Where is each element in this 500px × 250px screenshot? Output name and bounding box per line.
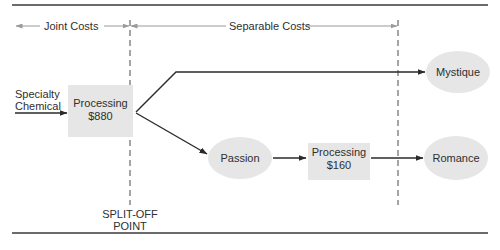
to-mystique-arrow bbox=[136, 72, 425, 112]
joint-processing-cost: $880 bbox=[68, 110, 133, 123]
separable-processing-cost: $160 bbox=[308, 159, 370, 172]
joint-processing-label: Processing bbox=[68, 97, 133, 110]
joint-costs-label: Joint Costs bbox=[44, 20, 98, 33]
romance-label: Romance bbox=[424, 152, 488, 165]
input-label-line2: Chemical bbox=[15, 100, 61, 113]
separable-processing-label: Processing bbox=[308, 146, 370, 159]
mystique-label: Mystique bbox=[426, 66, 490, 79]
split-off-label-line2: POINT bbox=[90, 220, 170, 233]
diagram-canvas bbox=[0, 0, 500, 250]
joint-cost-flow-diagram: Joint Costs Separable Costs Specialty Ch… bbox=[0, 0, 500, 250]
separable-costs-label: Separable Costs bbox=[229, 20, 310, 33]
passion-label: Passion bbox=[208, 152, 272, 165]
to-passion-arrow bbox=[136, 113, 207, 154]
